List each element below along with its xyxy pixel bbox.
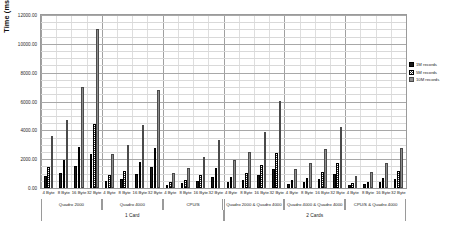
bar-2 bbox=[370, 172, 373, 188]
bar-0 bbox=[120, 179, 123, 188]
bar-2 bbox=[385, 163, 388, 188]
bar-1 bbox=[123, 171, 126, 188]
x-axis-group-labels: Quadro 2000Quadro 4000CPU/SQuadro 2000 &… bbox=[40, 199, 407, 210]
bar-2 bbox=[96, 29, 99, 188]
x-tick-label: 16 Byte bbox=[193, 190, 208, 195]
x-tick-label: 8 Byte bbox=[301, 190, 313, 195]
group-label: Quadro 4000 bbox=[102, 199, 163, 210]
bar-2 bbox=[127, 145, 130, 188]
bar-group bbox=[315, 15, 330, 188]
bar-group bbox=[87, 15, 102, 188]
legend-item: 5M records bbox=[409, 70, 449, 75]
chart-legend: 1M records5M records10M records bbox=[409, 62, 449, 85]
bar-group bbox=[193, 15, 208, 188]
legend-swatch-icon bbox=[409, 77, 414, 82]
x-tick-label: 32 Byte bbox=[269, 190, 284, 195]
bar-2 bbox=[66, 120, 69, 188]
y-tick-label: 0.00 bbox=[28, 186, 37, 191]
x-tick-label: 4 Byte bbox=[103, 190, 115, 195]
bar-2 bbox=[294, 169, 297, 188]
bar-2 bbox=[279, 101, 282, 188]
bar-1 bbox=[139, 162, 142, 188]
x-axis-supergroup-labels: 1 Card2 Cards bbox=[40, 210, 407, 221]
x-axis-tick-labels: 4 Byte8 Byte16 Byte32 Byte4 Byte8 Byte16… bbox=[40, 190, 407, 199]
legend-swatch-icon bbox=[409, 70, 414, 75]
bar-1 bbox=[93, 124, 96, 188]
bar-0 bbox=[348, 185, 351, 188]
bar-0 bbox=[166, 185, 169, 188]
bar-2 bbox=[309, 163, 312, 188]
x-tick-label: 4 Byte bbox=[286, 190, 298, 195]
bar-0 bbox=[394, 179, 397, 189]
bar-1 bbox=[397, 171, 400, 188]
x-tick-label: 16 Byte bbox=[254, 190, 269, 195]
bar-0 bbox=[44, 176, 47, 188]
x-tick-label: 4 Byte bbox=[43, 190, 55, 195]
y-tick-label: 6000.00 bbox=[20, 99, 37, 104]
x-tick-label: 16 Byte bbox=[315, 190, 330, 195]
bar-0 bbox=[287, 184, 290, 188]
bar-0 bbox=[257, 175, 260, 188]
bar-0 bbox=[135, 174, 138, 188]
bar-2 bbox=[172, 173, 175, 188]
bar-0 bbox=[272, 169, 275, 188]
x-tick-label: 32 Byte bbox=[391, 190, 406, 195]
bar-group bbox=[300, 15, 315, 188]
legend-swatch-icon bbox=[409, 62, 414, 67]
bar-1 bbox=[275, 153, 278, 188]
bar-2 bbox=[218, 140, 221, 188]
bar-group bbox=[269, 15, 284, 188]
bar-0 bbox=[181, 183, 184, 188]
bar-group bbox=[117, 15, 132, 188]
bar-group bbox=[147, 15, 162, 188]
x-tick-label: 8 Byte bbox=[240, 190, 252, 195]
group-label: Quadro 4000 & Quadro 4000 bbox=[284, 199, 345, 210]
bar-2 bbox=[233, 160, 236, 188]
x-tick-label: 8 Byte bbox=[119, 190, 131, 195]
bar-0 bbox=[333, 174, 336, 188]
legend-item: 10M records bbox=[409, 77, 449, 82]
bar-1 bbox=[169, 182, 172, 188]
bar-1 bbox=[184, 180, 187, 188]
bar-2 bbox=[157, 90, 160, 188]
bar-group bbox=[71, 15, 86, 188]
x-tick-label: 32 Byte bbox=[209, 190, 224, 195]
bar-0 bbox=[150, 167, 153, 188]
bar-0 bbox=[59, 173, 62, 188]
bar-1 bbox=[321, 172, 324, 188]
bar-2 bbox=[51, 136, 54, 188]
x-tick-label: 16 Byte bbox=[133, 190, 148, 195]
bar-0 bbox=[211, 177, 214, 188]
x-tick-label: 8 Byte bbox=[179, 190, 191, 195]
bar-1 bbox=[260, 165, 263, 188]
bar-1 bbox=[245, 173, 248, 188]
supergroup-label: 1 Card bbox=[41, 210, 224, 221]
bar-group bbox=[102, 15, 117, 188]
legend-label: 5M records bbox=[416, 70, 437, 75]
bar-2 bbox=[264, 132, 267, 188]
y-tick-label: 8000.00 bbox=[20, 70, 37, 75]
bar-1 bbox=[47, 167, 50, 188]
x-tick-label: 32 Byte bbox=[148, 190, 163, 195]
y-tick-label: 12000.00 bbox=[18, 13, 37, 18]
y-tick-label: 2000.00 bbox=[20, 157, 37, 162]
bar-1 bbox=[382, 178, 385, 188]
bar-0 bbox=[363, 184, 366, 188]
x-tick-label: 4 Byte bbox=[225, 190, 237, 195]
bar-series-layer bbox=[41, 15, 406, 188]
plot-area bbox=[40, 14, 407, 189]
bar-group bbox=[391, 15, 406, 188]
bar-0 bbox=[90, 154, 93, 188]
bar-group bbox=[208, 15, 223, 188]
bar-0 bbox=[318, 179, 321, 188]
y-tick-label: 10000.00 bbox=[18, 41, 37, 46]
group-label: CPU/S bbox=[163, 199, 224, 210]
y-tick-label: 4000.00 bbox=[20, 128, 37, 133]
bar-2 bbox=[400, 148, 403, 188]
bar-1 bbox=[63, 160, 66, 188]
bar-0 bbox=[379, 182, 382, 188]
bar-group bbox=[376, 15, 391, 188]
bar-group bbox=[56, 15, 71, 188]
bar-group bbox=[254, 15, 269, 188]
bar-group bbox=[330, 15, 345, 188]
